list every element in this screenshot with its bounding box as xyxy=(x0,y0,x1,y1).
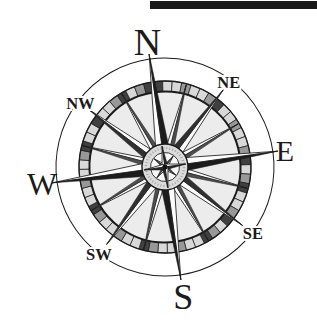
compass-label-w: W xyxy=(27,166,58,202)
compass-label-s: S xyxy=(173,277,193,317)
compass-rose-group xyxy=(36,38,294,296)
compass-rose-illustration: NNEESESSWWNW xyxy=(0,0,317,325)
compass-label-ne: NE xyxy=(217,73,240,92)
compass-label-nw: NW xyxy=(66,94,95,113)
compass-label-se: SE xyxy=(243,224,263,243)
compass-label-e: E xyxy=(276,134,294,167)
scanned-page: NNEESESSWWNW xyxy=(0,0,317,325)
compass-label-sw: SW xyxy=(86,245,112,264)
compass-label-n: N xyxy=(134,21,161,63)
